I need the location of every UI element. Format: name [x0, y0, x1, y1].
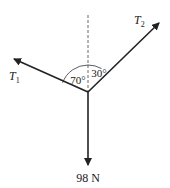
weight-label: 98 N — [76, 171, 100, 185]
angle-label-30: 30° — [91, 67, 106, 79]
t2-label: T2 — [134, 13, 145, 29]
t1-label: T1 — [9, 69, 20, 85]
force-diagram: T1 T2 98 N 70° 30° — [0, 0, 170, 188]
angle-label-70: 70° — [70, 74, 85, 86]
t2-force-arrow — [88, 23, 159, 92]
